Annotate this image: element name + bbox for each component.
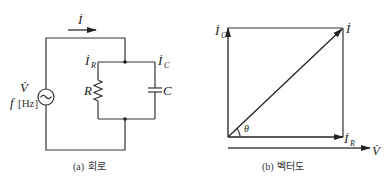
vector-diagram: θ İ C İ İ R V̇ (b) 벡터도	[214, 21, 382, 173]
svg-text:İ: İ	[343, 131, 349, 146]
svg-text:C: C	[221, 31, 227, 40]
resistor-label: R	[83, 83, 92, 98]
i-vector-label: İ	[345, 21, 351, 36]
i-vector-arrow	[228, 29, 342, 137]
parallel-branch-wire	[98, 62, 155, 119]
ic-vector-label: İ C	[214, 23, 227, 40]
source-frequency-unit: [Hz]	[18, 97, 38, 109]
capacitor-current-label: İ C	[157, 53, 170, 70]
v-axis-label: V̇	[372, 143, 382, 158]
svg-text:회로: 회로	[88, 161, 106, 172]
capacitor-label: C	[163, 83, 172, 98]
junction-dot-bottom	[123, 117, 127, 121]
svg-text:R: R	[90, 61, 96, 70]
svg-text:İ: İ	[214, 23, 220, 38]
circuit-diagram: İ V̇ f [Hz] R	[10, 12, 172, 173]
theta-arc	[237, 129, 240, 137]
resistor-icon	[94, 80, 102, 101]
source-voltage-label: V̇	[20, 80, 30, 95]
ac-source-icon	[38, 89, 54, 105]
ir-vector-label: İ R	[343, 131, 355, 148]
theta-label: θ	[244, 123, 249, 134]
capacitor-icon	[148, 88, 162, 92]
svg-text:(b): (b)	[262, 161, 274, 173]
junction-dot-top	[123, 60, 127, 64]
current-label: İ	[77, 12, 83, 27]
svg-text:(a): (a)	[73, 161, 84, 173]
svg-text:벡터도: 벡터도	[277, 161, 304, 172]
svg-text:İ: İ	[84, 53, 90, 68]
vector-caption: (b) 벡터도	[262, 161, 304, 173]
resistor-current-label: İ R	[84, 53, 96, 70]
svg-text:C: C	[164, 61, 170, 70]
figure-canvas: İ V̇ f [Hz] R	[0, 0, 392, 184]
svg-text:İ: İ	[157, 53, 163, 68]
circuit-caption: (a) 회로	[73, 161, 106, 173]
source-frequency-symbol: f	[10, 95, 16, 110]
svg-text:R: R	[349, 139, 355, 148]
